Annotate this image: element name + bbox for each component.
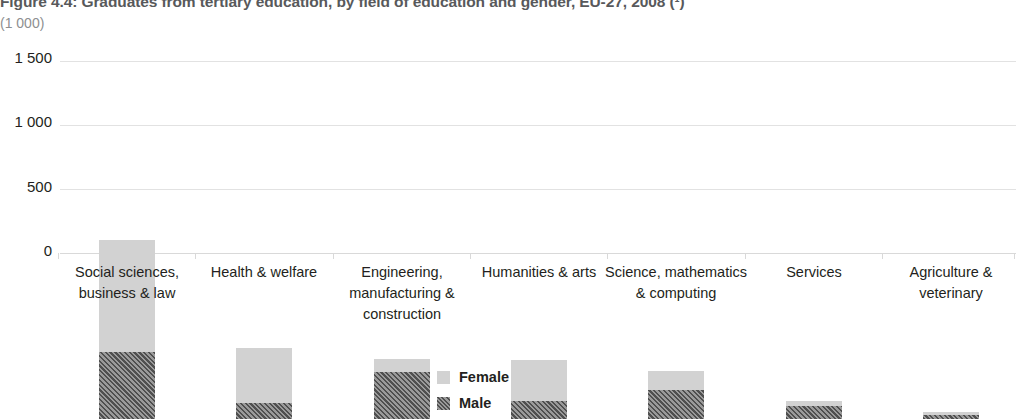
x-label-services: Services xyxy=(739,262,889,283)
x-tick-2 xyxy=(333,253,334,259)
legend-item-male[interactable]: Male xyxy=(0,392,1016,414)
figure-container: Figure 4.4: Graduates from tertiary educ… xyxy=(0,0,1016,419)
x-label-engineering: Engineering, manufacturing & constructio… xyxy=(327,262,477,325)
x-tick-0 xyxy=(58,253,59,259)
x-tick-7 xyxy=(1014,253,1015,259)
chart-legend: Female Male xyxy=(0,366,1016,419)
legend-swatch-male-icon xyxy=(437,397,450,410)
x-axis-category-labels: Social sciences, business & law Health &… xyxy=(0,262,1016,352)
legend-label-male: Male xyxy=(459,395,579,411)
legend-swatch-female-icon xyxy=(437,371,450,384)
x-label-agriculture: Agriculture & veterinary xyxy=(876,262,1016,304)
x-tick-5 xyxy=(745,253,746,259)
legend-item-female[interactable]: Female xyxy=(0,366,1016,388)
x-label-social-sciences: Social sciences, business & law xyxy=(52,262,202,304)
x-tick-4 xyxy=(607,253,608,259)
legend-label-female: Female xyxy=(459,369,579,385)
x-tick-6 xyxy=(882,253,883,259)
x-label-health-welfare: Health & welfare xyxy=(189,262,339,283)
bar-series-container xyxy=(0,0,1016,419)
x-label-science-math: Science, mathematics & computing xyxy=(601,262,751,304)
x-tick-3 xyxy=(470,253,471,259)
x-tick-1 xyxy=(195,253,196,259)
x-label-humanities-arts: Humanities & arts xyxy=(464,262,614,283)
